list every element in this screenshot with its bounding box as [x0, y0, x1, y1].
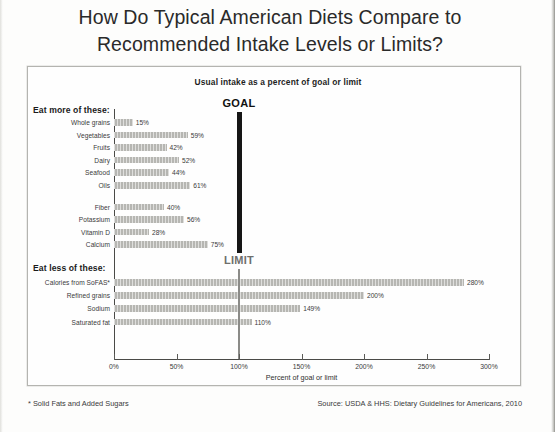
page-title-line-2: Recommended Intake Levels or Limits?	[0, 31, 540, 58]
bar-row: Fruits42%	[28, 143, 520, 152]
bar-category-label: Sodium	[28, 304, 110, 313]
bar-value-label: 75%	[211, 240, 224, 249]
x-axis-tick	[364, 354, 365, 360]
bar-value-label: 40%	[167, 203, 180, 212]
bar-row: Seafood44%	[28, 168, 520, 177]
bar	[114, 132, 188, 139]
bar-category-label: Potassium	[28, 215, 110, 224]
group-heading-eat-more: Eat more of these:	[33, 105, 110, 115]
bar-category-label: Fruits	[28, 143, 110, 152]
limit-marker-line	[238, 269, 240, 359]
bar-row: Whole grains15%	[28, 118, 520, 127]
bar-value-label: 200%	[367, 291, 384, 300]
bar-category-label: Oils	[28, 181, 110, 190]
bar	[114, 144, 167, 151]
x-axis-tick-label: 0%	[109, 363, 119, 370]
bar-value-label: 110%	[255, 318, 271, 327]
x-axis-tick	[427, 354, 428, 360]
bar-value-label: 15%	[136, 118, 149, 127]
bar-category-label: Calories from SoFAS*	[28, 278, 110, 287]
x-axis-tick	[239, 354, 240, 360]
bar	[114, 229, 149, 236]
footnote-sofas: * Solid Fats and Added Sugars	[28, 399, 129, 408]
bar-row: Sodium149%	[28, 304, 520, 313]
bar-category-label: Whole grains	[28, 118, 110, 127]
bar	[114, 216, 184, 223]
bar-value-label: 59%	[191, 131, 204, 140]
page-title-line-1: How Do Typical American Diets Compare to	[0, 4, 540, 31]
bar-value-label: 52%	[182, 156, 195, 165]
bar	[114, 241, 208, 248]
bar-row: Fiber40%	[28, 203, 520, 212]
bar	[114, 305, 300, 312]
bar	[114, 169, 169, 176]
bar-row: Dairy52%	[28, 156, 520, 165]
scan-edge-right	[551, 0, 555, 432]
bar-row: Oils61%	[28, 181, 520, 190]
bar-row: Calories from SoFAS*280%	[28, 278, 520, 287]
bar-category-label: Vegetables	[28, 131, 110, 140]
x-axis-tick	[302, 354, 303, 360]
scan-edge-left	[0, 0, 3, 432]
bar-category-label: Calcium	[28, 240, 110, 249]
bar-value-label: 61%	[193, 181, 206, 190]
bar-value-label: 44%	[172, 168, 185, 177]
chart-title: Usual intake as a percent of goal or lim…	[88, 77, 468, 87]
goal-marker-label: GOAL	[223, 97, 256, 109]
bar-value-label: 42%	[170, 143, 183, 152]
chart-figure: Usual intake as a percent of goal or lim…	[27, 66, 521, 386]
group-heading-eat-less: Eat less of these:	[33, 263, 105, 273]
bar-row: Vegetables59%	[28, 131, 520, 140]
bar-category-label: Dairy	[28, 156, 110, 165]
x-axis-title: Percent of goal or limit	[114, 373, 489, 382]
bar-row: Calcium75%	[28, 240, 520, 249]
x-axis-tick	[114, 354, 115, 360]
bar-category-label: Saturated fat	[28, 318, 110, 327]
bar-category-label: Fiber	[28, 203, 110, 212]
bar-category-label: Vitamin D	[28, 228, 110, 237]
bar-value-label: 28%	[152, 228, 165, 237]
bar	[114, 279, 464, 286]
bar-row: Saturated fat110%	[28, 318, 520, 327]
bar	[114, 182, 190, 189]
bar	[114, 319, 252, 326]
bar-value-label: 149%	[303, 304, 320, 313]
bar-category-label: Refined grains	[28, 291, 110, 300]
x-axis-tick-label: 50%	[170, 363, 184, 370]
goal-marker-line	[237, 112, 242, 253]
bar	[114, 157, 179, 164]
bar-row: Vitamin D28%	[28, 228, 520, 237]
limit-marker-label: LIMIT	[224, 254, 254, 266]
footnote-source: Source: USDA & HHS: Dietary Guidelines f…	[317, 399, 522, 408]
x-axis-tick	[489, 354, 490, 360]
bar	[114, 204, 164, 211]
bar-row: Refined grains200%	[28, 291, 520, 300]
bar-category-label: Seafood	[28, 168, 110, 177]
x-axis-tick-label: 200%	[355, 363, 372, 370]
bar-row: Potassium56%	[28, 215, 520, 224]
page-title: How Do Typical American Diets Compare to…	[0, 4, 540, 58]
x-axis-tick-label: 250%	[418, 363, 435, 370]
x-axis-tick-label: 150%	[293, 363, 310, 370]
bar-value-label: 280%	[467, 278, 484, 287]
bar-value-label: 56%	[187, 215, 200, 224]
x-axis-tick-label: 100%	[230, 363, 247, 370]
x-axis-tick-label: 300%	[480, 363, 497, 370]
bar	[114, 119, 133, 126]
x-axis-tick	[177, 354, 178, 360]
